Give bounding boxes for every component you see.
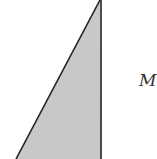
triangle-figure <box>0 0 157 159</box>
diagram-canvas: M <box>0 0 157 159</box>
side-label-m: M <box>139 72 156 89</box>
